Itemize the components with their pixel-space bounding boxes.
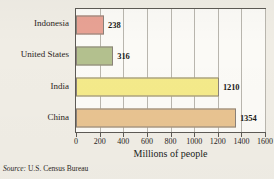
bar-series: 23831612101354 — [76, 9, 265, 132]
bar-row: 1354 — [76, 103, 265, 134]
x-tick-label: 600 — [141, 137, 153, 146]
x-tick-label: 1200 — [210, 137, 226, 146]
source-text: U.S. Census Bureau — [28, 164, 88, 173]
bar-chart-figure: IndonesiaUnited StatesIndiaChina 2383161… — [0, 0, 274, 179]
bar-indonesia — [76, 15, 104, 34]
plot-area: 23831612101354 — [75, 8, 266, 133]
bar-china — [76, 109, 236, 128]
x-tick-label: 1000 — [186, 137, 202, 146]
bar-row: 1210 — [76, 72, 265, 103]
bar-value-label: 1210 — [223, 82, 240, 92]
x-tick-label: 200 — [94, 137, 106, 146]
category-label-china: China — [48, 102, 70, 133]
x-tick-label: 400 — [117, 137, 129, 146]
bar-value-label: 316 — [117, 51, 129, 61]
bar-india — [76, 78, 219, 97]
bar-row: 238 — [76, 9, 265, 40]
category-axis-labels: IndonesiaUnited StatesIndiaChina — [0, 8, 72, 133]
bar-value-label: 238 — [108, 20, 120, 30]
source-note: Source: U.S. Census Bureau — [3, 164, 88, 173]
category-label-india: India — [51, 71, 70, 102]
bar-row: 316 — [76, 40, 265, 71]
gridline — [265, 9, 266, 132]
x-tick-label: 1600 — [257, 137, 273, 146]
category-label-indonesia: Indonesia — [34, 8, 69, 39]
x-tick-label: 1400 — [233, 137, 249, 146]
x-tick-label: 800 — [165, 137, 177, 146]
bar-value-label: 1354 — [240, 113, 257, 123]
source-prefix: Source: — [3, 164, 26, 173]
bar-united-states — [76, 46, 113, 65]
x-tick-label: 0 — [74, 137, 78, 146]
x-axis-title: Millions of people — [75, 148, 266, 159]
category-label-united-states: United States — [21, 39, 69, 70]
